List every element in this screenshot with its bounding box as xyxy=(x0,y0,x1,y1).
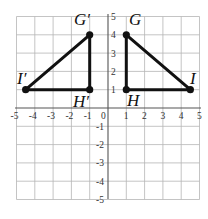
x-tick-label: 1 xyxy=(124,111,129,121)
x-tick-label: -5 xyxy=(11,111,19,121)
y-tick-label: 4 xyxy=(111,30,116,40)
vertex-dot xyxy=(123,31,130,38)
x-tick-label: -3 xyxy=(47,111,55,121)
y-tick-label: 3 xyxy=(111,49,116,59)
y-tick-label: -1 xyxy=(96,122,104,132)
label-h: H xyxy=(126,91,141,110)
x-tick-label: 2 xyxy=(142,111,147,121)
x-tick-label: -4 xyxy=(29,111,37,121)
y-tick-label: 2 xyxy=(111,67,116,77)
x-tick-label: 4 xyxy=(179,111,184,121)
label-g: G xyxy=(129,10,141,29)
triangle-ghi-prime xyxy=(26,35,90,90)
y-tick-label: -5 xyxy=(96,195,104,205)
x-tick-label: -2 xyxy=(65,111,73,121)
y-tick-label: 5 xyxy=(111,12,116,22)
x-tick-label: 3 xyxy=(160,111,165,121)
label-i: I xyxy=(189,69,197,88)
y-tick-label: -4 xyxy=(96,177,104,187)
x-tick-label: 5 xyxy=(197,111,202,121)
x-tick-label: -1 xyxy=(84,111,92,121)
triangle-ghi xyxy=(126,35,190,90)
label-i-prime: I′ xyxy=(16,69,27,88)
x-tick-label: 0 xyxy=(101,111,106,121)
label-g-prime: G′ xyxy=(74,10,90,29)
vertex-dot xyxy=(86,31,93,38)
label-h-prime: H′ xyxy=(72,92,89,111)
y-tick-label: 1 xyxy=(111,85,116,95)
y-tick-label: -2 xyxy=(96,140,104,150)
y-tick-label: -3 xyxy=(96,158,104,168)
coordinate-plane: -5-4-3-2-101234554321-1-2-3-4-5 G H I G′… xyxy=(0,0,208,219)
